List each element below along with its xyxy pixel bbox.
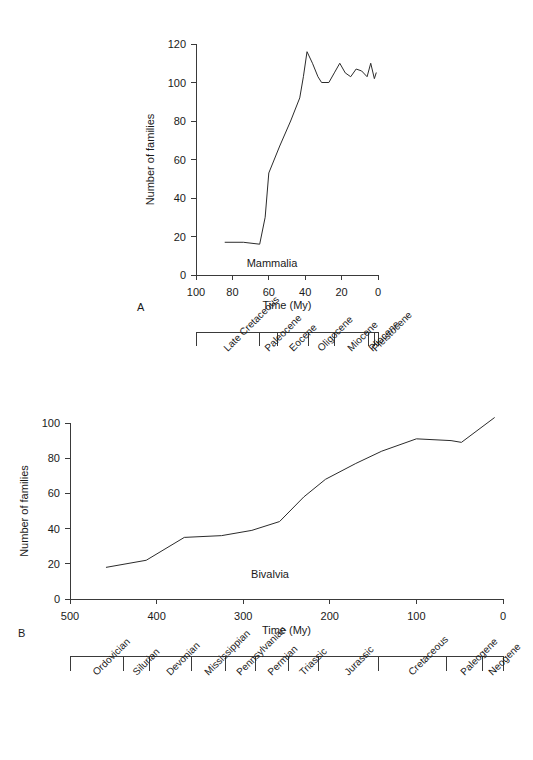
x-tick-label-mammalia: 100: [187, 286, 205, 298]
x-tick-label-bivalvia: 0: [500, 610, 506, 622]
y-tick-label-mammalia: 100: [168, 77, 186, 89]
timescale-interval-label: Ordovician: [90, 636, 132, 678]
data-line-bivalvia: [106, 418, 494, 568]
x-tick-label-bivalvia: 500: [61, 610, 79, 622]
timescale-interval-label: Cretaceous: [406, 633, 450, 677]
x-tick-label-mammalia: 20: [335, 286, 347, 298]
x-tick-label-mammalia: 40: [299, 286, 311, 298]
y-tick-label-mammalia: 120: [168, 38, 186, 50]
y-tick-label-bivalvia: 40: [48, 523, 60, 535]
y-tick-label-bivalvia: 80: [48, 452, 60, 464]
timescale-interval-label: Jurassic: [342, 644, 376, 678]
timescale-interval-label: Triassic: [297, 646, 329, 678]
x-tick-label-bivalvia: 300: [234, 610, 252, 622]
x-tick-label-mammalia: 0: [375, 286, 381, 298]
y-tick-label-mammalia: 0: [180, 269, 186, 281]
timescale-interval-label: Silurian: [130, 646, 161, 677]
timescale-interval-label: Devonian: [164, 640, 202, 678]
y-tick-label-mammalia: 60: [174, 154, 186, 166]
y-tick-label-mammalia: 20: [174, 231, 186, 243]
y-tick-label-mammalia: 40: [174, 192, 186, 204]
figure-root: 020406080100120100806040200Time (My)Numb…: [0, 0, 533, 760]
y-tick-label-bivalvia: 60: [48, 487, 60, 499]
y-tick-label-mammalia: 80: [174, 115, 186, 127]
panel-label-b: B: [18, 627, 25, 639]
panel-label-a: A: [137, 301, 145, 313]
figure-canvas: 020406080100120100806040200Time (My)Numb…: [0, 0, 533, 760]
series-label-bivalvia: Bivalvia: [251, 568, 290, 580]
timescale-interval-label: Pleistocene: [370, 309, 415, 354]
y-tick-label-bivalvia: 20: [48, 558, 60, 570]
x-tick-label-bivalvia: 100: [407, 610, 425, 622]
y-axis-title-mammalia: Number of families: [144, 113, 156, 205]
x-tick-label-bivalvia: 200: [321, 610, 339, 622]
series-label-mammalia: Mammalia: [247, 257, 299, 269]
y-axis-title-bivalvia: Number of families: [18, 465, 30, 557]
y-tick-label-bivalvia: 100: [42, 417, 60, 429]
x-tick-label-mammalia: 80: [226, 286, 238, 298]
x-tick-label-bivalvia: 400: [147, 610, 165, 622]
y-tick-label-bivalvia: 0: [54, 593, 60, 605]
data-line-mammalia: [225, 52, 376, 245]
